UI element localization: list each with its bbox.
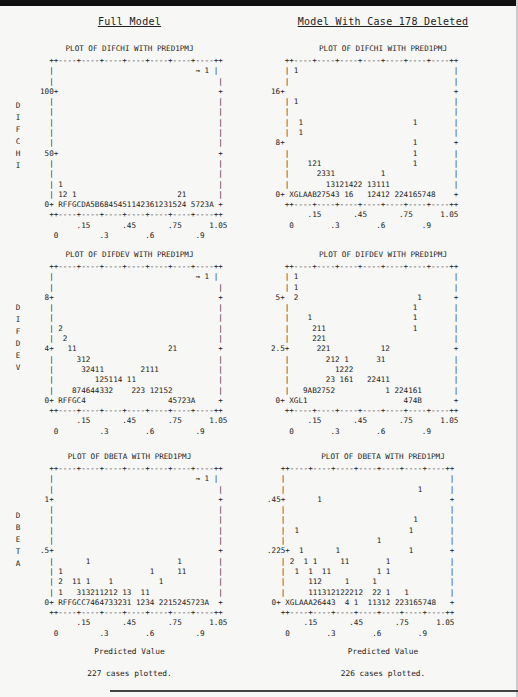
ascii-plot-body: ++----+----+----+----+----+----+----++ |…	[40, 56, 227, 241]
y-axis-label: D I F D E V	[14, 302, 22, 374]
cases-plotted: 227 cases plotted.	[0, 669, 259, 678]
column-title: Model With Case 178 Deleted	[259, 16, 507, 27]
ascii-plot-body: ++----+----+----+----+----+----+----++ |…	[271, 56, 458, 231]
ascii-plot-body: ++----+----+----+----+----+----+----++ |…	[271, 262, 458, 437]
y-axis-label: D B E T A	[14, 510, 22, 570]
plot-title: PLOT OF DIFCHI WITH PRED1PMJ	[259, 44, 507, 53]
plot-title: PLOT OF DBETA WITH PRED1PMJ	[0, 452, 259, 461]
ascii-plot-body: ++----+----+----+----+----+----+----++ |…	[40, 464, 227, 639]
plot-title: PLOT OF DIFDEV WITH PRED1PMJ	[0, 250, 259, 259]
plot-title: PLOT OF DIFCHI WITH PRED1PMJ	[0, 44, 259, 53]
ascii-plot-body: ++----+----+----+----+----+----+----++ |…	[40, 262, 227, 437]
full-model-column: Full Model PLOT OF DIFCHI WITH PRED1PMJ …	[0, 0, 259, 697]
x-axis-label: Predicted Value	[0, 647, 259, 656]
ascii-plot-body: ++----+----+----+----+----+----+----++ |…	[267, 464, 454, 639]
x-axis-label: Predicted Value	[259, 647, 507, 656]
cases-plotted: 226 cases plotted.	[259, 669, 507, 678]
y-axis-label: D I F C H I	[14, 100, 22, 172]
plot-title: PLOT OF DBETA WITH PRED1PMJ	[259, 452, 507, 461]
column-title: Full Model	[0, 16, 259, 27]
case-deleted-column: Model With Case 178 Deleted PLOT OF DIFC…	[259, 0, 518, 697]
plot-title: PLOT OF DIFDEV WITH PRED1PMJ	[259, 250, 507, 259]
